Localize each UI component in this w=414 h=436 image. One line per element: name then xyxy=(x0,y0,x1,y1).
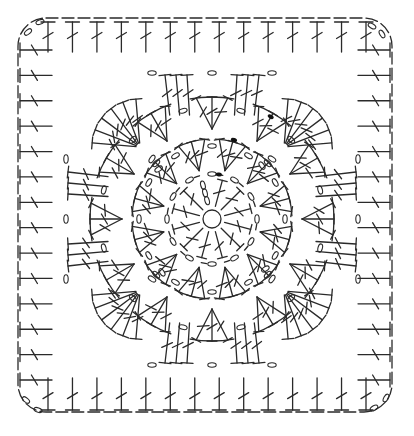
double-crochet-icon xyxy=(139,22,153,52)
double-crochet-icon xyxy=(290,154,320,174)
chain-icon xyxy=(208,262,216,266)
chain-icon xyxy=(247,192,255,201)
double-crochet-icon xyxy=(260,221,292,233)
double-crochet-icon xyxy=(20,43,52,57)
double-crochet-icon xyxy=(358,94,390,108)
double-crochet-icon xyxy=(261,378,275,410)
double-crochet-icon xyxy=(359,378,373,410)
chain-icon xyxy=(283,215,287,223)
double-crochet-icon xyxy=(20,94,52,108)
double-crochet-icon xyxy=(188,378,202,410)
double-crochet-icon xyxy=(290,264,320,284)
double-crochet-icon xyxy=(257,111,277,141)
double-crochet-icon xyxy=(20,246,52,260)
double-crochet-icon xyxy=(310,22,324,52)
corner-chain-icon xyxy=(382,393,390,402)
double-crochet-icon xyxy=(20,68,52,82)
double-crochet-icon xyxy=(114,378,128,410)
double-crochet-icon xyxy=(188,22,202,52)
chain-icon xyxy=(255,215,259,223)
double-crochet-icon xyxy=(20,373,52,387)
corner-chain-icon xyxy=(367,22,376,30)
double-crochet-icon xyxy=(290,142,313,174)
chain-icon xyxy=(208,172,216,176)
double-crochet-icon xyxy=(197,138,210,170)
double-crochet-icon xyxy=(358,271,390,285)
crochet-chart-svg xyxy=(0,0,414,436)
double-crochet-icon xyxy=(135,297,167,320)
double-crochet-icon xyxy=(20,297,52,311)
chain-icon xyxy=(268,363,276,367)
chain-icon xyxy=(271,251,279,260)
double-crochet-icon xyxy=(20,119,52,133)
double-crochet-icon xyxy=(135,118,167,141)
double-crochet-icon xyxy=(358,43,390,57)
chain-icon xyxy=(230,176,239,184)
double-crochet-icon xyxy=(224,140,238,170)
double-crochet-icon xyxy=(260,231,290,245)
chain-icon xyxy=(208,144,216,148)
double-crochet-icon xyxy=(358,145,390,159)
double-crochet-icon xyxy=(358,322,390,336)
double-crochet-icon xyxy=(225,204,252,216)
double-crochet-icon xyxy=(310,378,324,410)
double-crochet-icon xyxy=(257,297,277,327)
double-crochet-icon xyxy=(290,264,313,296)
double-crochet-icon xyxy=(212,22,226,52)
chain-icon xyxy=(185,176,194,184)
double-crochet-icon xyxy=(302,214,334,224)
double-crochet-icon xyxy=(192,309,212,342)
chain-icon xyxy=(208,290,216,294)
double-crochet-icon xyxy=(237,378,251,410)
chain-icon xyxy=(171,278,180,286)
border-frame xyxy=(18,18,392,412)
chain-icon xyxy=(356,215,360,223)
chain-icon xyxy=(148,363,156,367)
double-crochet-icon xyxy=(335,378,349,410)
double-crochet-icon xyxy=(111,142,134,174)
double-crochet-icon xyxy=(172,222,199,234)
double-crochet-icon xyxy=(358,246,390,260)
double-crochet-icon xyxy=(114,22,128,52)
double-crochet-icon xyxy=(215,232,227,259)
double-crochet-icon xyxy=(111,264,134,296)
double-crochet-icon xyxy=(163,378,177,410)
magic-ring-icon xyxy=(203,210,221,228)
double-crochet-icon xyxy=(212,309,232,342)
chain-icon xyxy=(171,152,180,160)
round-4 xyxy=(89,96,335,342)
chain-icon xyxy=(64,275,68,283)
double-crochet-icon xyxy=(20,322,52,336)
corner-chain-icon xyxy=(369,404,378,412)
double-crochet-icon xyxy=(302,219,335,239)
double-crochet-icon xyxy=(90,214,122,224)
round-1 xyxy=(172,179,252,259)
double-crochet-icon xyxy=(358,170,390,184)
crochet-chart xyxy=(0,0,414,436)
chain-icon xyxy=(165,215,169,223)
double-crochet-icon xyxy=(257,297,289,320)
double-crochet-icon xyxy=(358,348,390,362)
double-crochet-icon xyxy=(358,373,390,387)
double-crochet-icon xyxy=(65,378,79,410)
double-crochet-icon xyxy=(358,68,390,82)
double-crochet-icon xyxy=(104,154,134,174)
double-crochet-icon xyxy=(225,221,252,235)
chain-icon xyxy=(148,71,156,75)
chain-icon xyxy=(64,155,68,163)
chain-icon xyxy=(145,178,153,187)
double-crochet-icon xyxy=(359,22,373,52)
double-crochet-icon xyxy=(286,22,300,52)
chain-icon xyxy=(271,178,279,187)
double-crochet-icon xyxy=(186,267,200,297)
chain-icon xyxy=(230,254,239,262)
chain-icon xyxy=(356,155,360,163)
double-crochet-icon xyxy=(197,232,211,259)
double-crochet-icon xyxy=(260,204,292,217)
double-crochet-icon xyxy=(172,204,199,218)
double-crochet-icon xyxy=(257,118,289,141)
round-6-border xyxy=(18,18,392,414)
double-crochet-icon xyxy=(207,97,217,129)
chain-icon xyxy=(185,254,194,262)
chain-icon xyxy=(64,215,68,223)
